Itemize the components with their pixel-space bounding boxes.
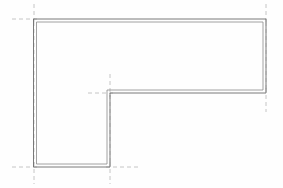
grid-line-group bbox=[12, 4, 266, 184]
floor-plan-drawing-canvas bbox=[0, 0, 283, 188]
floor-plan-vector bbox=[0, 0, 283, 188]
building-outline-outer-wall bbox=[34, 19, 266, 167]
